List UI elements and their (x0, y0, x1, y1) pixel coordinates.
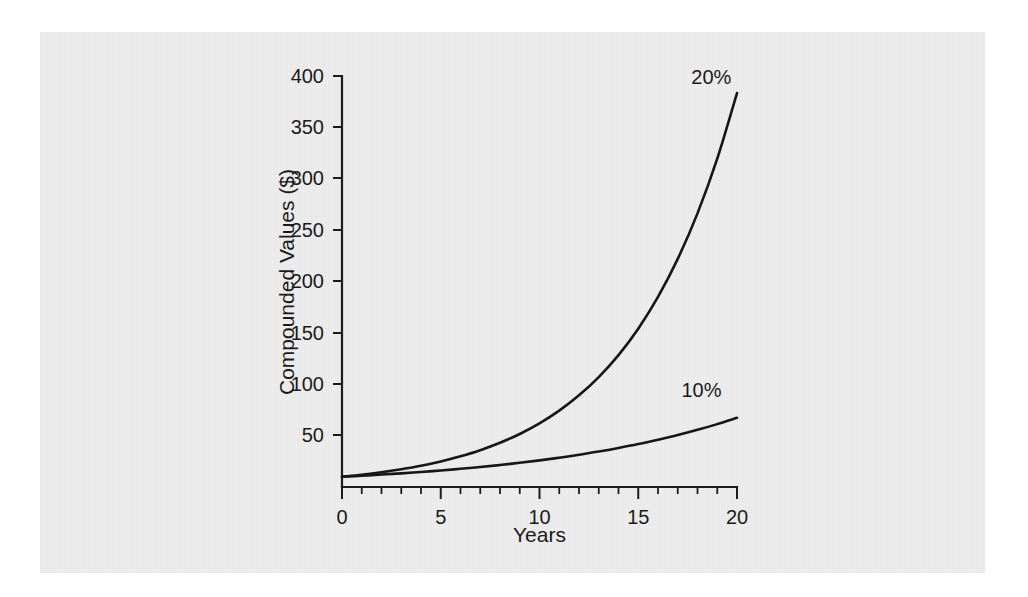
x-tick-label-5: 5 (435, 506, 446, 528)
figure-canvas: 400 350 300 250 200 150 100 50 (0, 0, 1028, 597)
x-tick-label-0: 0 (336, 506, 347, 528)
compound-interest-line-chart: 400 350 300 250 200 150 100 50 (40, 32, 985, 573)
series-curve-10-percent (342, 418, 737, 477)
y-tick-label-350: 350 (291, 116, 324, 138)
y-axis-title: Compounded Values ($) (275, 169, 298, 395)
y-tick-label-400: 400 (291, 65, 324, 87)
series-label-20-percent: 20% (691, 66, 731, 88)
axis-lines (342, 76, 737, 487)
y-axis-ticks (333, 76, 342, 435)
x-tick-label-15: 15 (627, 506, 649, 528)
figure-plate: 400 350 300 250 200 150 100 50 (40, 32, 985, 573)
x-tick-label-20: 20 (726, 506, 748, 528)
series-curves (342, 93, 737, 477)
y-tick-label-50: 50 (302, 424, 324, 446)
x-axis-title: Years (513, 523, 566, 546)
series-curve-20-percent (342, 93, 737, 477)
series-label-10-percent: 10% (681, 379, 721, 401)
